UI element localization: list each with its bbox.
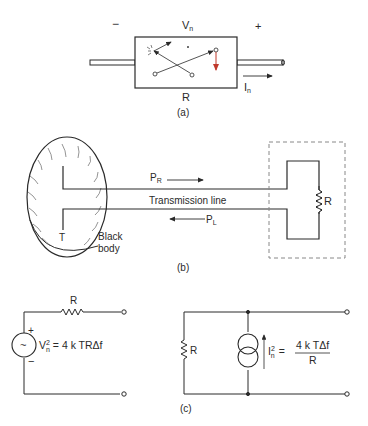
thevenin-circuit — [12, 309, 126, 396]
figure-b: R PR Transmission line PL T Black body (… — [27, 137, 345, 273]
caption-b: (b) — [177, 262, 189, 273]
temperature-label: T — [59, 232, 65, 243]
resistor-body — [135, 37, 237, 88]
minus-sign: − — [112, 17, 119, 31]
line-label: Transmission line — [149, 195, 227, 206]
resistor-label-b: R — [324, 195, 332, 207]
sine-icon: ~ — [20, 339, 26, 351]
current-equation-denominator: R — [309, 354, 317, 366]
figure-c: ~ R + − V2n= 4 k TRΔf R I2n= 4 k TΔf R (… — [12, 295, 349, 414]
current-label: In — [244, 81, 251, 94]
power-right-label: PR — [150, 172, 162, 184]
current-equation-lhs: I2n= — [268, 345, 285, 359]
shunt-resistor-label: R — [190, 345, 197, 356]
minus-sign-c: − — [28, 355, 34, 367]
series-resistor-label: R — [70, 295, 77, 306]
black-body — [27, 137, 107, 257]
current-equation-numerator: 4 k TΔf — [296, 339, 329, 351]
caption-a: (a) — [177, 107, 189, 118]
plus-sign: + — [255, 20, 261, 32]
resistor-label: R — [182, 91, 190, 103]
enclosure-dashed — [269, 142, 345, 258]
caption-c: (c) — [180, 403, 192, 414]
plus-sign-c: + — [28, 325, 34, 336]
voltage-equation: V2n= 4 k TRΔf — [39, 339, 103, 353]
figure-a: − + Vn R — [90, 17, 285, 118]
black-body-label-2: body — [98, 243, 120, 254]
power-left-label: PL — [206, 214, 217, 226]
noise-diagram: − + Vn R — [0, 0, 368, 426]
black-body-label-1: Black — [98, 231, 123, 242]
voltage-label: Vn — [182, 19, 193, 32]
